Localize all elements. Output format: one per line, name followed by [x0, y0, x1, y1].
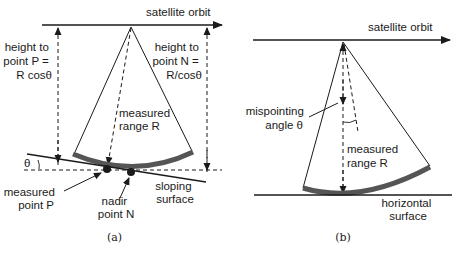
range-label-a: measured range R	[119, 107, 173, 132]
point-p-label: measured point P	[4, 186, 58, 211]
height-p-label: height to point P = R cosθ	[3, 41, 52, 81]
diagram-canvas: satellite orbit height to point P = R co…	[0, 0, 466, 255]
theta-label-a: θ	[24, 157, 30, 169]
nadir-point-n	[127, 168, 135, 176]
mispointing-arc-b	[343, 120, 356, 123]
panel-b: satellite orbit mispointing angle θ meas…	[246, 21, 452, 244]
horizontal-surface-label: horizontal surface	[381, 197, 434, 222]
range-label-b: measured range R	[347, 143, 401, 169]
footprint-arc-b	[303, 167, 430, 193]
orbit-label-a: satellite orbit	[146, 6, 211, 18]
pointer-arrow-p	[64, 173, 101, 191]
panel-a: satellite orbit height to point P = R co…	[3, 6, 222, 244]
beam-edge-left-b	[303, 42, 343, 188]
sloping-surface-label: sloping surface	[155, 180, 195, 205]
caption-b: (b)	[335, 231, 351, 244]
orbit-label-b: satellite orbit	[368, 21, 433, 33]
point-n-label: nadir point N	[98, 195, 134, 220]
caption-a: (a)	[107, 231, 122, 244]
mispointing-label: mispointing angle θ	[246, 105, 307, 131]
beam-axis-b	[344, 44, 358, 132]
theta-arc-a	[38, 160, 39, 169]
beam-edge-left-a	[75, 27, 131, 152]
range-line-a	[108, 28, 131, 164]
height-n-label: height to point N = R/cosθ	[152, 41, 202, 81]
measured-point-p	[103, 165, 111, 173]
